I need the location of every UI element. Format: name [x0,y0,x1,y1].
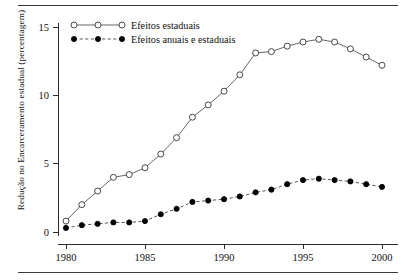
y-tick-label: 15 [39,22,50,33]
data-point [63,225,68,230]
legend-marker-1 [95,36,100,41]
data-point [285,182,290,187]
data-point [379,62,385,68]
x-tick-label: 1995 [293,252,314,263]
data-point [174,135,180,141]
legend-group: Efeitos estaduaisEfeitos anuais e estadu… [71,20,235,45]
x-tick-label: 1980 [56,252,77,263]
legend-entry-0: Efeitos estaduais [71,20,200,31]
data-point [189,114,195,120]
data-point [316,176,321,181]
data-point [142,218,147,223]
x-tick-label: 1985 [135,252,156,263]
data-point [379,184,384,189]
data-point [126,172,132,178]
data-point [127,220,132,225]
x-tick-label: 1990 [214,252,235,263]
chart-plot-area: 05101519801985199019952000 Efeitos estad… [0,0,413,280]
data-point [142,165,148,171]
legend-marker-0 [119,22,125,28]
data-point [300,177,305,182]
data-point [284,43,290,49]
data-point [110,174,116,180]
data-point [364,182,369,187]
legend-label-0: Efeitos estaduais [131,20,200,31]
data-point [268,49,274,55]
data-point [95,221,100,226]
data-point [332,39,338,45]
data-point [269,187,274,192]
data-point [190,199,195,204]
data-point [79,223,84,228]
data-point [221,88,227,94]
data-point [332,177,337,182]
data-point [174,206,179,211]
y-tick-label: 0 [44,227,49,238]
data-point [95,188,101,194]
data-point [300,39,306,45]
legend-entry-1: Efeitos anuais e estaduais [71,34,235,45]
data-point [111,220,116,225]
data-point [347,46,353,52]
data-point [79,202,85,208]
x-tick-label: 2000 [372,252,393,263]
legend-marker-1 [71,36,76,41]
y-tick-label: 5 [44,158,49,169]
data-point [237,194,242,199]
data-point [237,72,243,78]
axes-group: 05101519801985199019952000 [39,22,399,263]
series-group [63,36,385,230]
data-point [348,179,353,184]
data-point [206,198,211,203]
y-tick-label: 10 [39,90,50,101]
data-point [253,50,259,56]
data-point [221,197,226,202]
data-point [253,190,258,195]
data-point [205,102,211,108]
legend-marker-0 [95,22,101,28]
figure-container: Redução no Encarceramento estadual (perc… [0,0,413,280]
legend-marker-0 [71,22,77,28]
data-point [363,54,369,60]
data-point [158,151,164,157]
data-point [316,36,322,42]
legend-marker-1 [119,36,124,41]
data-point [63,218,69,224]
legend-label-1: Efeitos anuais e estaduais [131,34,235,45]
series-line-0 [66,39,382,221]
data-point [158,212,163,217]
